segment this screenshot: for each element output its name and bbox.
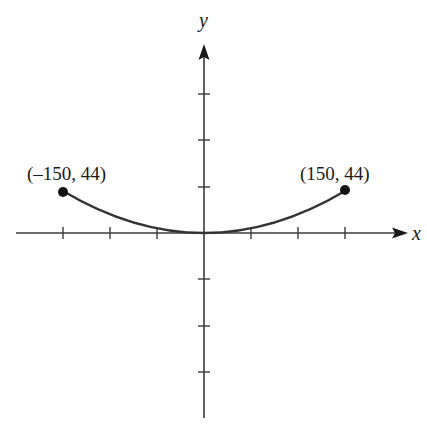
right-endpoint-marker <box>340 185 350 195</box>
left-endpoint-marker <box>58 187 68 197</box>
left-point-label: (–150, 44) <box>27 163 106 185</box>
x-axis-label: x <box>411 222 421 244</box>
parabola-chart: (–150, 44) (150, 44) x y <box>0 0 427 427</box>
right-point-label: (150, 44) <box>300 163 370 185</box>
y-axis-label: y <box>197 9 208 32</box>
